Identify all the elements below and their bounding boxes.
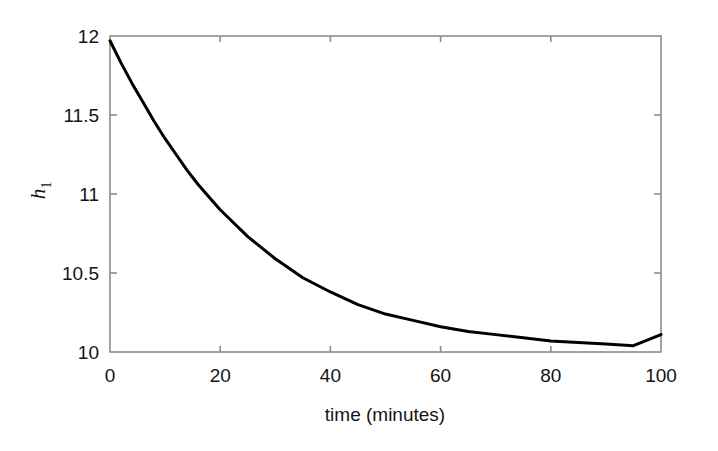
y-axis-ticks bbox=[110, 115, 661, 273]
x-axis-ticks bbox=[220, 36, 551, 352]
x-tick-label: 60 bbox=[430, 365, 451, 386]
y-axis-tick-labels: 1010.51111.512 bbox=[62, 26, 99, 363]
x-tick-label: 20 bbox=[210, 365, 231, 386]
x-tick-label: 0 bbox=[105, 365, 116, 386]
figure-container: 020406080100 1010.51111.512 time (minute… bbox=[0, 0, 718, 451]
y-axis-title-base: h bbox=[26, 189, 50, 200]
y-axis-title: h 1 bbox=[26, 182, 54, 200]
plot-frame bbox=[110, 36, 661, 352]
line-chart: 020406080100 1010.51111.512 time (minute… bbox=[0, 0, 718, 451]
x-axis-title: time (minutes) bbox=[325, 404, 445, 425]
y-tick-label: 10 bbox=[78, 342, 99, 363]
x-tick-label: 80 bbox=[540, 365, 561, 386]
x-tick-label: 40 bbox=[320, 365, 341, 386]
x-axis-tick-labels: 020406080100 bbox=[105, 365, 677, 386]
y-tick-label: 11 bbox=[79, 184, 99, 205]
y-tick-label: 12 bbox=[78, 26, 99, 47]
x-tick-label: 100 bbox=[645, 365, 677, 386]
y-axis-title-subscript: 1 bbox=[39, 182, 54, 189]
data-series-h1 bbox=[110, 41, 661, 346]
y-tick-label: 10.5 bbox=[62, 263, 99, 284]
y-tick-label: 11.5 bbox=[63, 105, 99, 126]
